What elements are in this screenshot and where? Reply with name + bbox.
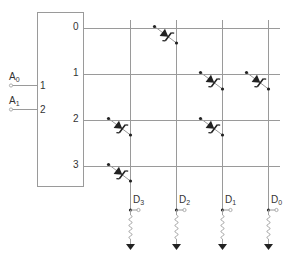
decoder-output-label-1: 1	[73, 68, 79, 78]
output-label-D2: D2	[179, 195, 190, 206]
junction-dot-icon	[129, 179, 132, 182]
output-label-D3: D3	[133, 195, 144, 206]
decoder-output-label-3: 3	[73, 160, 79, 170]
output-taps	[126, 208, 278, 250]
output-terminal-icon	[137, 208, 140, 211]
diode-icon	[112, 165, 128, 181]
diode-row3-colD3	[107, 163, 132, 183]
resistor-icon	[267, 210, 271, 244]
diode-bar-tick	[125, 170, 128, 173]
diode-row1-colD0	[245, 71, 270, 91]
input-pin-2-text: 2	[40, 104, 46, 115]
diode-bar-tick	[254, 85, 257, 88]
output-label-D3-subscript: 3	[140, 199, 144, 206]
junction-dot-icon	[221, 133, 224, 136]
resistor-icon	[221, 210, 225, 244]
diode-bar-tick	[162, 39, 165, 42]
input-label-A0: A0	[9, 72, 20, 83]
diode-bar-tick	[217, 78, 220, 81]
input-label-A1-text: A	[9, 95, 16, 106]
input-label-A0-text: A	[9, 71, 16, 82]
input-label-A1: A1	[9, 96, 20, 107]
decoder-output-label-0-text: 0	[73, 21, 79, 32]
junction-dot-icon	[221, 87, 224, 90]
diode-bar-tick	[125, 124, 128, 127]
input-label-A1-subscript: 1	[16, 100, 20, 107]
output-terminal-icon	[183, 208, 186, 211]
diode-row2-colD3	[107, 117, 132, 137]
output-label-D0: D0	[271, 195, 282, 206]
input-pin-1-text: 1	[40, 80, 46, 91]
decoder-output-label-0: 0	[73, 22, 79, 32]
junction-dot-icon	[153, 25, 156, 28]
diode-bar-tick	[116, 177, 119, 180]
junction-dot-icon	[245, 71, 248, 74]
output-terminal-icon	[229, 208, 232, 211]
junction-dot-icon	[267, 87, 270, 90]
input-pin-1: 1	[40, 81, 46, 91]
input-terminal-icon	[9, 108, 12, 111]
column-lines	[131, 20, 269, 210]
junction-dot-icon	[107, 163, 110, 166]
input-label-A0-subscript: 0	[16, 76, 20, 83]
diode-bar-tick	[171, 32, 174, 35]
decoder-output-label-2: 2	[73, 114, 79, 124]
resistor-icon	[175, 210, 179, 244]
ground-icon	[264, 244, 273, 250]
junction-dot-icon	[175, 41, 178, 44]
diode-icon	[250, 73, 266, 89]
decoder-output-label-3-text: 3	[73, 159, 79, 170]
ground-icon	[126, 244, 135, 250]
decoder-output-label-2-text: 2	[73, 113, 79, 124]
diode-icon	[204, 119, 220, 135]
diodes	[107, 25, 270, 183]
diode-icon	[204, 73, 220, 89]
output-label-D1-subscript: 1	[232, 199, 236, 206]
diode-matrix-diagram	[0, 0, 297, 261]
diode-bar-tick	[217, 124, 220, 127]
input-terminal-icon	[9, 84, 12, 87]
decoder-output-label-1-text: 1	[73, 67, 79, 78]
diode-icon	[112, 119, 128, 135]
output-label-D2-subscript: 2	[186, 199, 190, 206]
junction-dot-icon	[107, 117, 110, 120]
diode-bar-tick	[208, 131, 211, 134]
diode-icon	[158, 27, 174, 43]
row-lines	[83, 29, 280, 167]
ground-icon	[172, 244, 181, 250]
output-label-D0-subscript: 0	[278, 199, 282, 206]
resistor-icon	[129, 210, 133, 244]
diode-bar-tick	[208, 85, 211, 88]
junction-dot-icon	[199, 71, 202, 74]
diode-row1-colD1	[199, 71, 224, 91]
junction-dot-icon	[129, 133, 132, 136]
diode-row2-colD1	[199, 117, 224, 137]
output-terminal-icon	[275, 208, 278, 211]
diode-bar-tick	[263, 78, 266, 81]
diode-bar-tick	[116, 131, 119, 134]
junction-dot-icon	[199, 117, 202, 120]
diode-row0-colD2	[153, 25, 178, 45]
ground-icon	[218, 244, 227, 250]
output-label-D1: D1	[225, 195, 236, 206]
input-pin-2: 2	[40, 105, 46, 115]
